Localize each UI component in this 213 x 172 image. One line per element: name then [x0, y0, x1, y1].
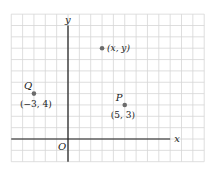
point-q-coordinates: (−3, 4)	[20, 99, 52, 109]
point-p-dot	[122, 103, 127, 108]
point-xy-dot	[100, 46, 105, 51]
origin-label: O	[58, 141, 66, 152]
point-xy-coordinates: (x, y)	[107, 43, 130, 53]
y-axis-label: y	[64, 14, 71, 25]
point-q-name: Q	[24, 80, 32, 91]
coordinate-plane-figure: x y O Q (−3, 4) P (5, 3) (x, y)	[0, 0, 213, 172]
point-p-coordinates: (5, 3)	[111, 110, 135, 120]
x-axis-label: x	[174, 133, 180, 144]
point-p-name: P	[115, 92, 123, 103]
point-q-dot	[32, 91, 37, 96]
